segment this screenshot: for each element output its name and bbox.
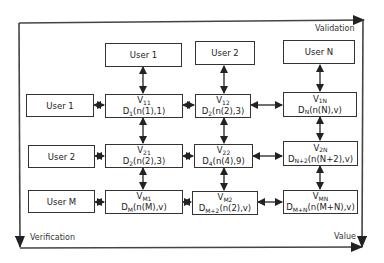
user-label: User 1 [46,101,73,111]
column-user-box-1: User 1 [105,43,182,67]
row-user-box-2: User 2 [28,145,95,168]
user-label: User 2 [211,48,238,58]
row-user-box-m: User M [28,190,95,213]
cell-vmn: VMN DM+N(n(M+N),v) [283,190,358,214]
cell-v2n: V2N DN+2(n(N+2),v) [283,141,358,166]
user-label: User M [47,197,76,207]
value-label: Value [334,232,356,241]
cell-v11: V11 D1(n(1),1) [105,94,183,118]
user-label: User N [305,47,333,57]
cell-vm2: VM2 DM+2(n(2),v) [192,191,258,215]
cell-vm1: VM1 DM(n(M),v) [105,190,183,214]
cell-v21: V21 D2(n(2),3) [105,144,183,168]
cell-v12: V12 D2(n(2),3) [195,94,251,118]
bidirectional-arrows [94,65,320,202]
user-label: User 2 [48,152,75,162]
cell-v1n: V1N DN(n(N),v) [283,92,357,117]
verification-label: Verification [30,233,75,242]
validation-label: Validation [315,24,355,33]
column-user-box-n: User N [283,40,355,64]
cell-v22: V22 D4(n(4),9) [194,144,253,168]
user-label: User 1 [130,50,157,60]
row-user-box-1: User 1 [26,94,94,117]
column-user-box-2: User 2 [195,41,255,65]
